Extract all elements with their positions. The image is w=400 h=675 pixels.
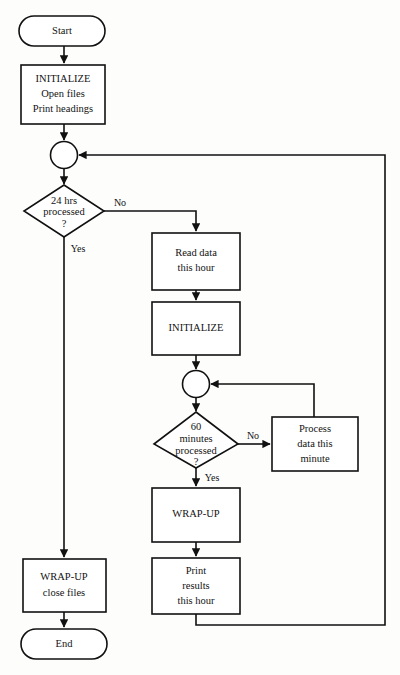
wrapup-close-shape bbox=[23, 559, 106, 612]
process-minute-line1: Process bbox=[299, 423, 331, 434]
node-wrapup-hour[interactable]: WRAP-UP bbox=[152, 488, 240, 542]
node-junction-outer[interactable] bbox=[51, 142, 78, 169]
node-junction-inner[interactable] bbox=[183, 371, 210, 398]
node-print-results[interactable]: Print results this hour bbox=[152, 558, 240, 614]
decision-hours-line2: processed bbox=[43, 206, 85, 217]
initialize-main-line1: INITIALIZE bbox=[36, 73, 91, 84]
wrapup-close-line2: close files bbox=[43, 587, 85, 598]
initialize-main-line3: Print headings bbox=[33, 103, 93, 114]
decision-hours-line1: 24 hrs bbox=[51, 195, 77, 206]
start-label: Start bbox=[52, 25, 72, 36]
decision-hours-line3: ? bbox=[62, 218, 67, 229]
wrapup-hour-line1: WRAP-UP bbox=[172, 508, 219, 519]
edge-label-minutes-no: No bbox=[247, 430, 259, 441]
node-initialize-hour[interactable]: INITIALIZE bbox=[152, 302, 240, 355]
print-results-line3: this hour bbox=[177, 595, 215, 606]
decision-minutes-line4: ? bbox=[194, 456, 199, 467]
initialize-hour-line1: INITIALIZE bbox=[169, 322, 224, 333]
end-label: End bbox=[56, 638, 74, 649]
process-minute-line3: minute bbox=[300, 453, 330, 464]
edge-label-hours-yes: Yes bbox=[71, 243, 86, 254]
decision-minutes-line3: processed bbox=[175, 445, 217, 456]
node-wrapup-close[interactable]: WRAP-UP close files bbox=[23, 559, 106, 612]
flowchart-canvas: Start INITIALIZE Open files Print headin… bbox=[0, 0, 400, 675]
edge-label-hours-no: No bbox=[114, 197, 126, 208]
edge-hours-no-to-read-data bbox=[104, 211, 196, 231]
process-minute-line2: data this bbox=[297, 438, 332, 449]
decision-minutes-line1: 60 bbox=[191, 421, 202, 432]
read-data-line1: Read data bbox=[175, 247, 217, 258]
print-results-line2: results bbox=[182, 580, 209, 591]
edge-print-results-back-to-junction-outer bbox=[79, 155, 385, 625]
node-process-minute[interactable]: Process data this minute bbox=[272, 417, 358, 471]
edge-label-minutes-yes: Yes bbox=[205, 472, 220, 483]
decision-minutes-line2: minutes bbox=[179, 433, 212, 444]
node-decision-minutes[interactable]: 60 minutes processed ? bbox=[154, 412, 238, 468]
edge-process-back-to-junction-inner bbox=[211, 384, 314, 417]
read-data-line2: this hour bbox=[177, 262, 215, 273]
wrapup-close-line1: WRAP-UP bbox=[40, 571, 87, 582]
node-initialize-main[interactable]: INITIALIZE Open files Print headings bbox=[21, 65, 105, 124]
junction-outer-shape bbox=[51, 142, 78, 169]
initialize-main-line2: Open files bbox=[41, 88, 84, 99]
junction-inner-shape bbox=[183, 371, 210, 398]
flowchart-svg: Start INITIALIZE Open files Print headin… bbox=[0, 0, 400, 675]
node-read-data[interactable]: Read data this hour bbox=[152, 233, 240, 290]
node-start[interactable]: Start bbox=[19, 16, 105, 46]
print-results-line1: Print bbox=[186, 565, 207, 576]
node-end[interactable]: End bbox=[21, 629, 107, 659]
node-decision-hours[interactable]: 24 hrs processed ? bbox=[24, 185, 104, 237]
